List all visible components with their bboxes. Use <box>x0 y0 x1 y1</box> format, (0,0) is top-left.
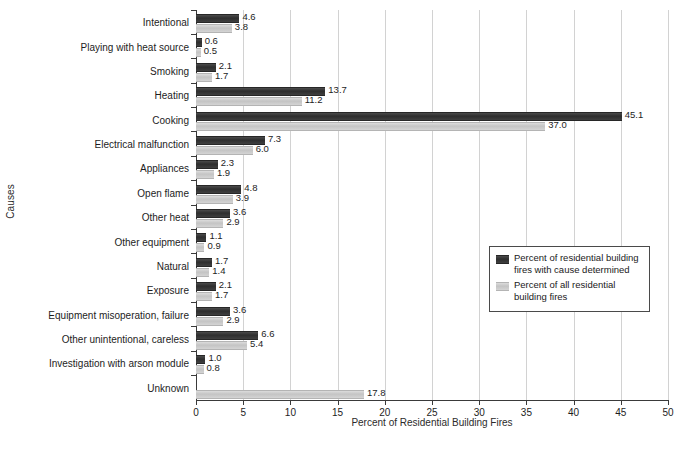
x-tick-35 <box>526 400 527 405</box>
bar-all <box>196 390 364 399</box>
y-tick <box>191 278 196 279</box>
category-label: Other equipment <box>115 236 190 247</box>
legend-label-all: Percent of all residential building fire… <box>514 279 644 303</box>
bar-all <box>196 317 223 326</box>
bar-row: Intentional4.63.8 <box>196 10 668 34</box>
bar-all <box>196 146 253 155</box>
bar-value-label: 3.9 <box>236 193 249 203</box>
y-tick <box>191 180 196 181</box>
bar-value-label: 6.0 <box>256 144 269 154</box>
bar-value-label: 1.7 <box>215 290 228 300</box>
category-label: Other heat <box>142 212 189 223</box>
gridline-50 <box>668 10 669 400</box>
bar-value-label: 4.8 <box>244 183 257 193</box>
bar-value-label: 13.7 <box>328 85 347 95</box>
bar-value-label: 1.9 <box>217 168 230 178</box>
bar-determined <box>196 233 206 242</box>
bar-determined <box>196 185 241 194</box>
bar-all <box>196 24 232 33</box>
x-tick-30 <box>479 400 480 405</box>
y-tick <box>191 10 196 11</box>
x-tick-45 <box>621 400 622 405</box>
y-tick <box>191 58 196 59</box>
bar-determined <box>196 282 216 291</box>
bar-value-label: 1.4 <box>212 266 225 276</box>
legend-swatch-determined-icon <box>496 255 509 264</box>
legend-item-all: Percent of all residential building fire… <box>496 279 644 303</box>
bar-chart: Causes Intentional4.63.8Playing with hea… <box>0 0 690 459</box>
bar-determined <box>196 331 258 340</box>
y-tick <box>191 253 196 254</box>
bar-value-label: 17.8 <box>367 388 386 398</box>
bar-determined <box>196 63 216 72</box>
bar-determined <box>196 209 230 218</box>
plot-area: Intentional4.63.8Playing with heat sourc… <box>196 10 668 400</box>
category-label: Equipment misoperation, failure <box>48 309 189 320</box>
bar-row: Investigation with arson module1.00.8 <box>196 351 668 375</box>
category-label: Smoking <box>150 65 189 76</box>
y-tick <box>191 107 196 108</box>
category-label: Cooking <box>152 114 189 125</box>
category-label: Unknown <box>147 382 189 393</box>
bar-determined <box>196 136 265 145</box>
category-label: Investigation with arson module <box>49 358 189 369</box>
category-label: Heating <box>155 90 189 101</box>
bar-row: Electrical malfunction7.36.0 <box>196 132 668 156</box>
category-label: Electrical malfunction <box>95 139 189 150</box>
category-label: Open flame <box>137 187 189 198</box>
bar-value-label: 7.3 <box>268 134 281 144</box>
y-tick <box>191 375 196 376</box>
y-tick <box>191 326 196 327</box>
bar-value-label: 11.2 <box>305 95 323 105</box>
y-tick <box>191 156 196 157</box>
bar-value-label: 0.8 <box>207 363 220 373</box>
bar-value-label: 0.5 <box>204 46 217 56</box>
bar-row: Cooking45.137.0 <box>196 108 668 132</box>
bar-value-label: 3.6 <box>233 305 246 315</box>
y-tick <box>191 229 196 230</box>
bar-all <box>196 341 247 350</box>
bar-row: Playing with heat source0.60.5 <box>196 34 668 58</box>
x-tick-40 <box>574 400 575 405</box>
bar-all <box>196 170 214 179</box>
x-tick-5 <box>243 400 244 405</box>
bar-all <box>196 195 233 204</box>
bar-determined <box>196 307 230 316</box>
x-tick-25 <box>432 400 433 405</box>
bar-determined <box>196 355 205 364</box>
bar-value-label: 6.6 <box>261 329 274 339</box>
bar-row: Other heat3.62.9 <box>196 205 668 229</box>
category-label: Appliances <box>140 163 189 174</box>
category-label: Natural <box>157 260 189 271</box>
legend-label-determined: Percent of residential building fires wi… <box>514 252 644 276</box>
bar-value-label: 45.1 <box>625 110 644 120</box>
bar-all <box>196 243 204 252</box>
bar-all <box>196 292 212 301</box>
x-tick-50 <box>668 400 669 405</box>
bar-value-label: 5.4 <box>250 339 263 349</box>
footer-cutoff-text <box>0 452 690 459</box>
bar-determined <box>196 14 239 23</box>
category-label: Intentional <box>143 17 189 28</box>
bar-value-label: 1.7 <box>215 256 228 266</box>
bar-row: Other unintentional, careless6.65.4 <box>196 327 668 351</box>
y-tick <box>191 205 196 206</box>
bar-all <box>196 365 204 374</box>
bar-row: Smoking2.11.7 <box>196 59 668 83</box>
x-tick-10 <box>290 400 291 405</box>
bar-value-label: 0.9 <box>207 241 220 251</box>
x-axis-title: Percent of Residential Building Fires <box>196 417 668 428</box>
bar-value-label: 2.1 <box>219 61 232 71</box>
bar-value-label: 37.0 <box>548 120 567 130</box>
bar-value-label: 1.7 <box>215 71 228 81</box>
category-label: Playing with heat source <box>81 41 189 52</box>
bar-all <box>196 219 223 228</box>
bar-row: Appliances2.31.9 <box>196 156 668 180</box>
bar-row: Heating13.711.2 <box>196 83 668 107</box>
y-tick <box>191 131 196 132</box>
bar-all <box>196 97 302 106</box>
y-axis-title: Causes <box>5 162 16 242</box>
x-tick-20 <box>385 400 386 405</box>
chart-legend: Percent of residential building fires wi… <box>489 246 650 312</box>
legend-item-determined: Percent of residential building fires wi… <box>496 252 644 276</box>
